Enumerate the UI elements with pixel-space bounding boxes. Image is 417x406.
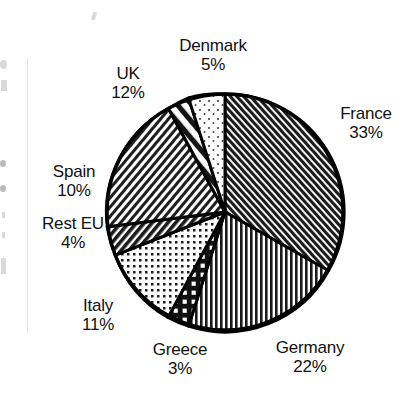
chart-page: Denmark 5% UK 12% France 33% Spain 10% R… xyxy=(0,0,417,406)
pie-label-spain-name: Spain xyxy=(26,162,122,181)
pie-label-italy-value: 11% xyxy=(52,315,144,334)
pie-label-italy: Italy 11% xyxy=(52,296,144,334)
pie-label-france-name: France xyxy=(318,104,414,123)
pie-label-rest-eu-name: Rest EU xyxy=(18,214,128,233)
pie-label-uk-value: 12% xyxy=(82,83,174,102)
pie-label-spain: Spain 10% xyxy=(26,162,122,200)
pie-label-uk-name: UK xyxy=(82,64,174,83)
pie-label-germany-name: Germany xyxy=(252,338,368,357)
pie-label-greece-value: 3% xyxy=(128,359,232,378)
pie-label-rest-eu-value: 4% xyxy=(18,233,128,252)
pie-label-italy-name: Italy xyxy=(52,296,144,315)
pie-label-germany: Germany 22% xyxy=(252,338,368,376)
pie-label-denmark-name: Denmark xyxy=(148,36,278,55)
pie-label-france: France 33% xyxy=(318,104,414,142)
pie-label-germany-value: 22% xyxy=(252,357,368,376)
pie-label-greece-name: Greece xyxy=(128,340,232,359)
pie-label-france-value: 33% xyxy=(318,123,414,142)
pie-label-rest-eu: Rest EU 4% xyxy=(18,214,128,252)
pie-label-spain-value: 10% xyxy=(26,181,122,200)
pie-label-greece: Greece 3% xyxy=(128,340,232,378)
pie-label-uk: UK 12% xyxy=(82,64,174,102)
